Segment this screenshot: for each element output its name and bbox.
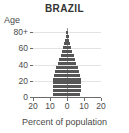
y-tick [30, 81, 33, 82]
x-tick-label: 20 [90, 101, 112, 111]
pyramid-bar-row [33, 50, 101, 53]
pyramid-bar-row [33, 42, 101, 45]
bar-female [67, 54, 74, 57]
y-tick [30, 48, 33, 49]
population-pyramid-figure: BRAZIL Age 020406080+ 201001020 Percent … [0, 0, 129, 133]
pyramid-bar-row [33, 54, 101, 57]
bar-female [67, 58, 75, 61]
bar-female [67, 46, 71, 49]
y-tick [30, 65, 33, 66]
pyramid-bar-row [33, 62, 101, 65]
bar-female [67, 81, 81, 84]
pyramid-bar-row [33, 58, 101, 61]
pyramid-bar-row [33, 89, 101, 92]
pyramid-bar-row [33, 39, 101, 42]
bar-female [67, 42, 70, 45]
bar-male [53, 85, 67, 88]
pyramid-bar-row [33, 70, 101, 73]
bar-male [55, 70, 67, 73]
x-axis-label: Percent of population [0, 117, 129, 127]
bar-female [67, 39, 69, 42]
bar-female [67, 66, 78, 69]
pyramid-bar-row [33, 81, 101, 84]
y-axis-label: Age [4, 15, 20, 25]
pyramid-bar-row [33, 66, 101, 69]
pyramid-bar-row [33, 78, 101, 81]
y-tick-label: 0 [0, 93, 28, 101]
y-tick-label: 40 [0, 61, 28, 69]
bar-female [67, 89, 81, 92]
bar-female [67, 35, 69, 38]
bar-male [53, 81, 67, 84]
pyramid-bar-row [33, 31, 101, 34]
y-tick [30, 32, 33, 33]
y-tick-label: 20 [0, 77, 28, 85]
pyramid-bar-row [33, 46, 101, 49]
pyramid-bar-row [33, 35, 101, 38]
bar-female [67, 50, 72, 53]
bar-male [53, 78, 67, 81]
bar-male [56, 66, 67, 69]
bar-female [67, 62, 76, 65]
bar-male [54, 74, 67, 77]
pyramid-bar-row [33, 85, 101, 88]
pyramid-bar-row [33, 74, 101, 77]
bar-male [58, 62, 67, 65]
pyramid-bar-row [33, 93, 101, 96]
bar-female [67, 74, 80, 77]
bar-female [67, 70, 79, 73]
bar-male [53, 93, 67, 96]
bar-male [53, 89, 67, 92]
bar-female [67, 31, 68, 34]
plot-area [33, 28, 101, 97]
y-tick-label: 80+ [0, 28, 28, 36]
bar-female [67, 78, 81, 81]
bar-male [59, 58, 67, 61]
bar-female [67, 85, 81, 88]
chart-title: BRAZIL [0, 3, 129, 14]
bar-female [67, 93, 80, 96]
y-tick-label: 60 [0, 44, 28, 52]
